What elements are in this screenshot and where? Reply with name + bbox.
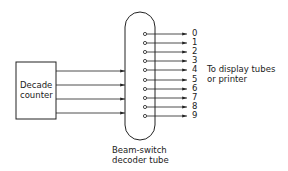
output-label-9: 9 [192, 111, 197, 120]
counter-label: Decade counter [20, 80, 52, 100]
tube-label-line2: decoder tube [112, 155, 169, 165]
destination-label: To display tubes or printer [207, 64, 275, 84]
tube-label: Beam-switch decoder tube [112, 145, 169, 165]
counter-label-line2: counter [20, 90, 52, 100]
output-label-4: 4 [192, 65, 197, 74]
beam-switch-tube [125, 12, 155, 140]
counter-label-line1: Decade [20, 80, 52, 90]
output-lines [143, 32, 187, 117]
tube-label-line1: Beam-switch [112, 145, 169, 155]
destination-line1: To display tubes [207, 64, 275, 74]
input-lines [56, 71, 125, 113]
destination-line2: or printer [207, 74, 275, 84]
